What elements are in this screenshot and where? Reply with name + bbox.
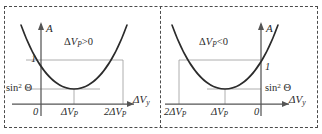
frame-right-border [317,6,318,128]
condition-label-left: ΔVP>0 [64,37,93,48]
parabola-curve-left [21,25,127,89]
origin-label-right: 0 [254,107,259,118]
figure-container: A ΔVP>0 1 sin2 Θ 0 ΔVP 2ΔVP ΔVy [0,0,322,134]
x-axis-label-right: ΔVy [289,94,306,107]
panel-left: A ΔVP>0 1 sin2 Θ 0 ΔVP 2ΔVP ΔVy [4,6,160,128]
x-axis-label-left: ΔVy [133,94,150,107]
x-tick-2dvp-right: 2ΔVP [164,107,186,118]
x-axis-arrow-right [282,101,289,107]
y-axis-arrow-left [38,22,44,30]
x-tick-dvp-left: ΔVP [61,107,78,118]
y-sin-squared-label-right: sin2 Θ [265,83,291,94]
y-axis-label-right: A [266,23,273,34]
panel-left-plot [4,6,160,128]
y-axis-label-left: A [46,23,53,34]
y-sin-squared-label-left: sin2 Θ [6,83,32,94]
x-tick-2dvp-left: 2ΔVP [104,107,126,118]
y-tick-one-right: 1 [265,62,270,73]
parabola-curve-right [172,25,278,89]
panel-right: A ΔVP<0 1 sin2 Θ 2ΔVP ΔVP 0 ΔVy [161,6,317,128]
x-tick-dvp-right: ΔVP [211,107,228,118]
origin-label-left: 0 [33,107,38,118]
y-axis-arrow-right [258,22,264,30]
condition-label-right: ΔVP<0 [199,37,228,48]
y-tick-one-left: 1 [31,54,36,65]
